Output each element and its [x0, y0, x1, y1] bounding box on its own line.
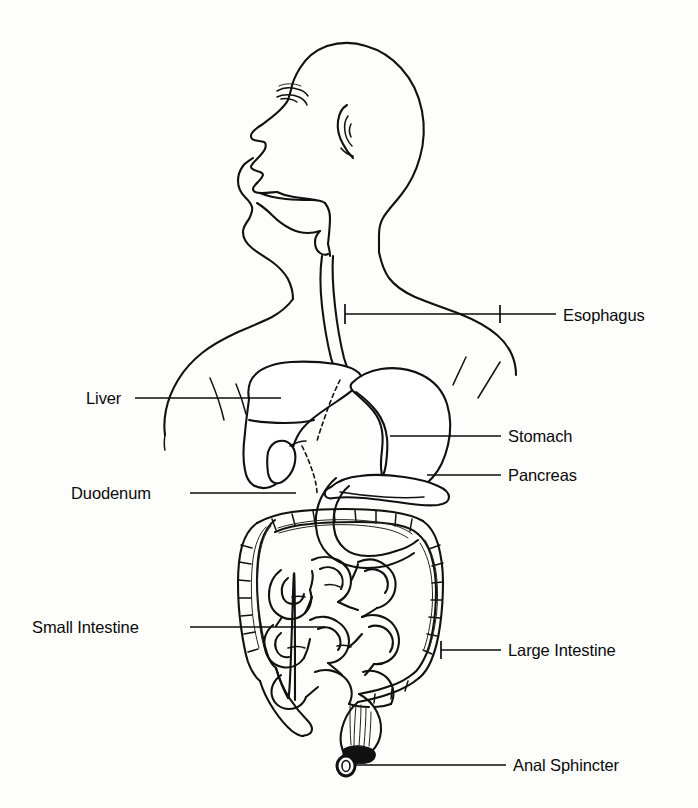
label-pancreas: Pancreas [508, 466, 577, 484]
head-profile [238, 43, 424, 299]
small-intestine [264, 557, 399, 709]
esophagus-tube [321, 256, 354, 380]
label-anal-sphincter: Anal Sphincter [513, 756, 620, 774]
label-small-intestine: Small Intestine [32, 618, 139, 636]
gallbladder [267, 441, 306, 484]
diagram-page: Esophagus Stomach Pancreas Large Intesti… [0, 0, 698, 808]
anal-sphincter [337, 746, 375, 776]
label-duodenum: Duodenum [71, 484, 151, 502]
mouth-cavity [257, 193, 330, 256]
stomach [349, 368, 450, 492]
ear-icon [338, 105, 353, 158]
liver [244, 362, 362, 488]
label-stomach: Stomach [508, 427, 572, 445]
label-liver: Liver [86, 389, 122, 407]
label-large-intestine: Large Intestine [508, 641, 616, 659]
digestive-system-figure: Esophagus Stomach Pancreas Large Intesti… [0, 0, 698, 808]
torso-outline [164, 252, 516, 450]
label-esophagus: Esophagus [563, 306, 645, 324]
